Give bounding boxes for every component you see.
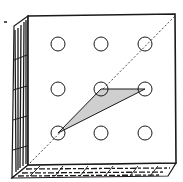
board-left-side: [12, 16, 28, 178]
geoboard-illustration: [0, 0, 183, 182]
